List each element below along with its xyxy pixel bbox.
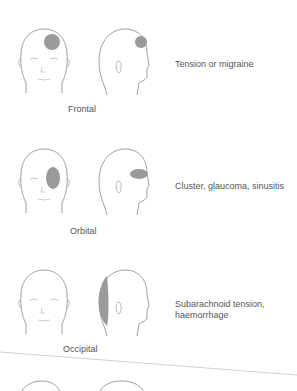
row-orbital: Orbital Cluster, glaucoma, sinusitis	[0, 122, 297, 242]
side-head-partial	[100, 381, 143, 391]
pain-area	[130, 169, 148, 179]
pain-area	[44, 34, 60, 50]
cause-label: Tension or migraine	[175, 59, 254, 70]
region-label: Frontal	[68, 104, 96, 114]
cause-label: Subarachnoid tension, haemorrhage	[175, 299, 265, 321]
region-label: Occipital	[63, 344, 98, 354]
pain-area	[46, 167, 60, 189]
pain-area	[135, 36, 147, 48]
row-frontal: Frontal Tension or migraine	[0, 0, 297, 120]
cause-line-2: haemorrhage	[175, 310, 265, 321]
front-head-occipital	[18, 266, 70, 341]
side-head-occipital	[95, 266, 150, 341]
cause-line-1: Subarachnoid tension,	[175, 299, 265, 310]
cause-label: Cluster, glaucoma, sinusitis	[175, 181, 284, 192]
side-head-frontal	[95, 25, 150, 100]
region-label: Orbital	[70, 226, 97, 236]
front-head-orbital	[18, 145, 70, 220]
side-head-orbital	[95, 145, 150, 220]
front-head-frontal	[18, 25, 70, 100]
pain-area	[99, 276, 109, 326]
front-head-partial	[22, 381, 60, 391]
row-occipital: Occipital Subarachnoid tension, haemorrh…	[0, 244, 297, 364]
